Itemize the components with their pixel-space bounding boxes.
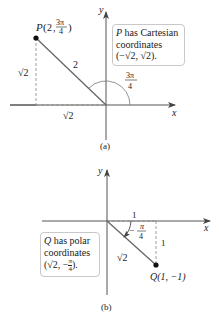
radius-label-b: √2 [117,252,128,263]
note-b-rest: has polar [51,235,90,246]
caption-a: (a) [100,141,110,151]
point-q [153,262,158,267]
y-axis-label-a: y [98,4,104,15]
angle-label-b-num: π [140,222,145,231]
point-p-r: 2 [47,22,52,33]
note-b-line3-b: ). [72,259,78,270]
note-a-rest: has Cartesian [122,27,178,38]
paren-close: ) [68,21,72,34]
radius-label-a: 2 [73,59,78,70]
horizontal-leg-label-b: 1 [132,210,137,220]
angle-arc-a [89,81,130,105]
vertical-leg-label-a: √2 [18,67,29,78]
vertical-leg-label-b: 1 [161,238,166,248]
note-a-line1: P has Cartesian [116,27,181,39]
y-axis-label-b: y [97,165,103,176]
angle-label-b-den: 4 [139,232,143,241]
note-a-line2: coordinates [116,39,181,51]
note-b-line3: (√2, −π4). [44,258,96,273]
polar-coordinates-diagram: y x P ( 2 , 3π 4 ) 2 3π 4 √2 √2 (a) y x … [0,0,219,315]
point-p-theta-num: 3π [56,18,64,27]
note-b-line3-a: (√2, − [44,259,68,270]
point-p [33,35,38,40]
note-a-line3: (−√2, √2). [116,50,181,62]
caption-b: (b) [101,302,112,312]
note-box-b: Q has polar coordinates (√2, −π4). [40,232,100,277]
x-axis-label-b: x [203,222,209,233]
point-p-label: P [35,21,43,33]
horizontal-leg-label-a: √2 [63,110,74,121]
x-axis-label-a: x [171,107,177,118]
point-q-label: Q(1, −1) [150,271,186,283]
note-box-a: P has Cartesian coordinates (−√2, √2). [112,24,185,66]
angle-label-b-sign: − [129,225,134,235]
radius-line-a [36,38,106,105]
point-p-theta-den: 4 [59,27,63,36]
note-b-line1: Q has polar [44,235,96,247]
angle-label-a-num: 3π [126,71,134,80]
angle-label-a-den: 4 [128,82,132,91]
